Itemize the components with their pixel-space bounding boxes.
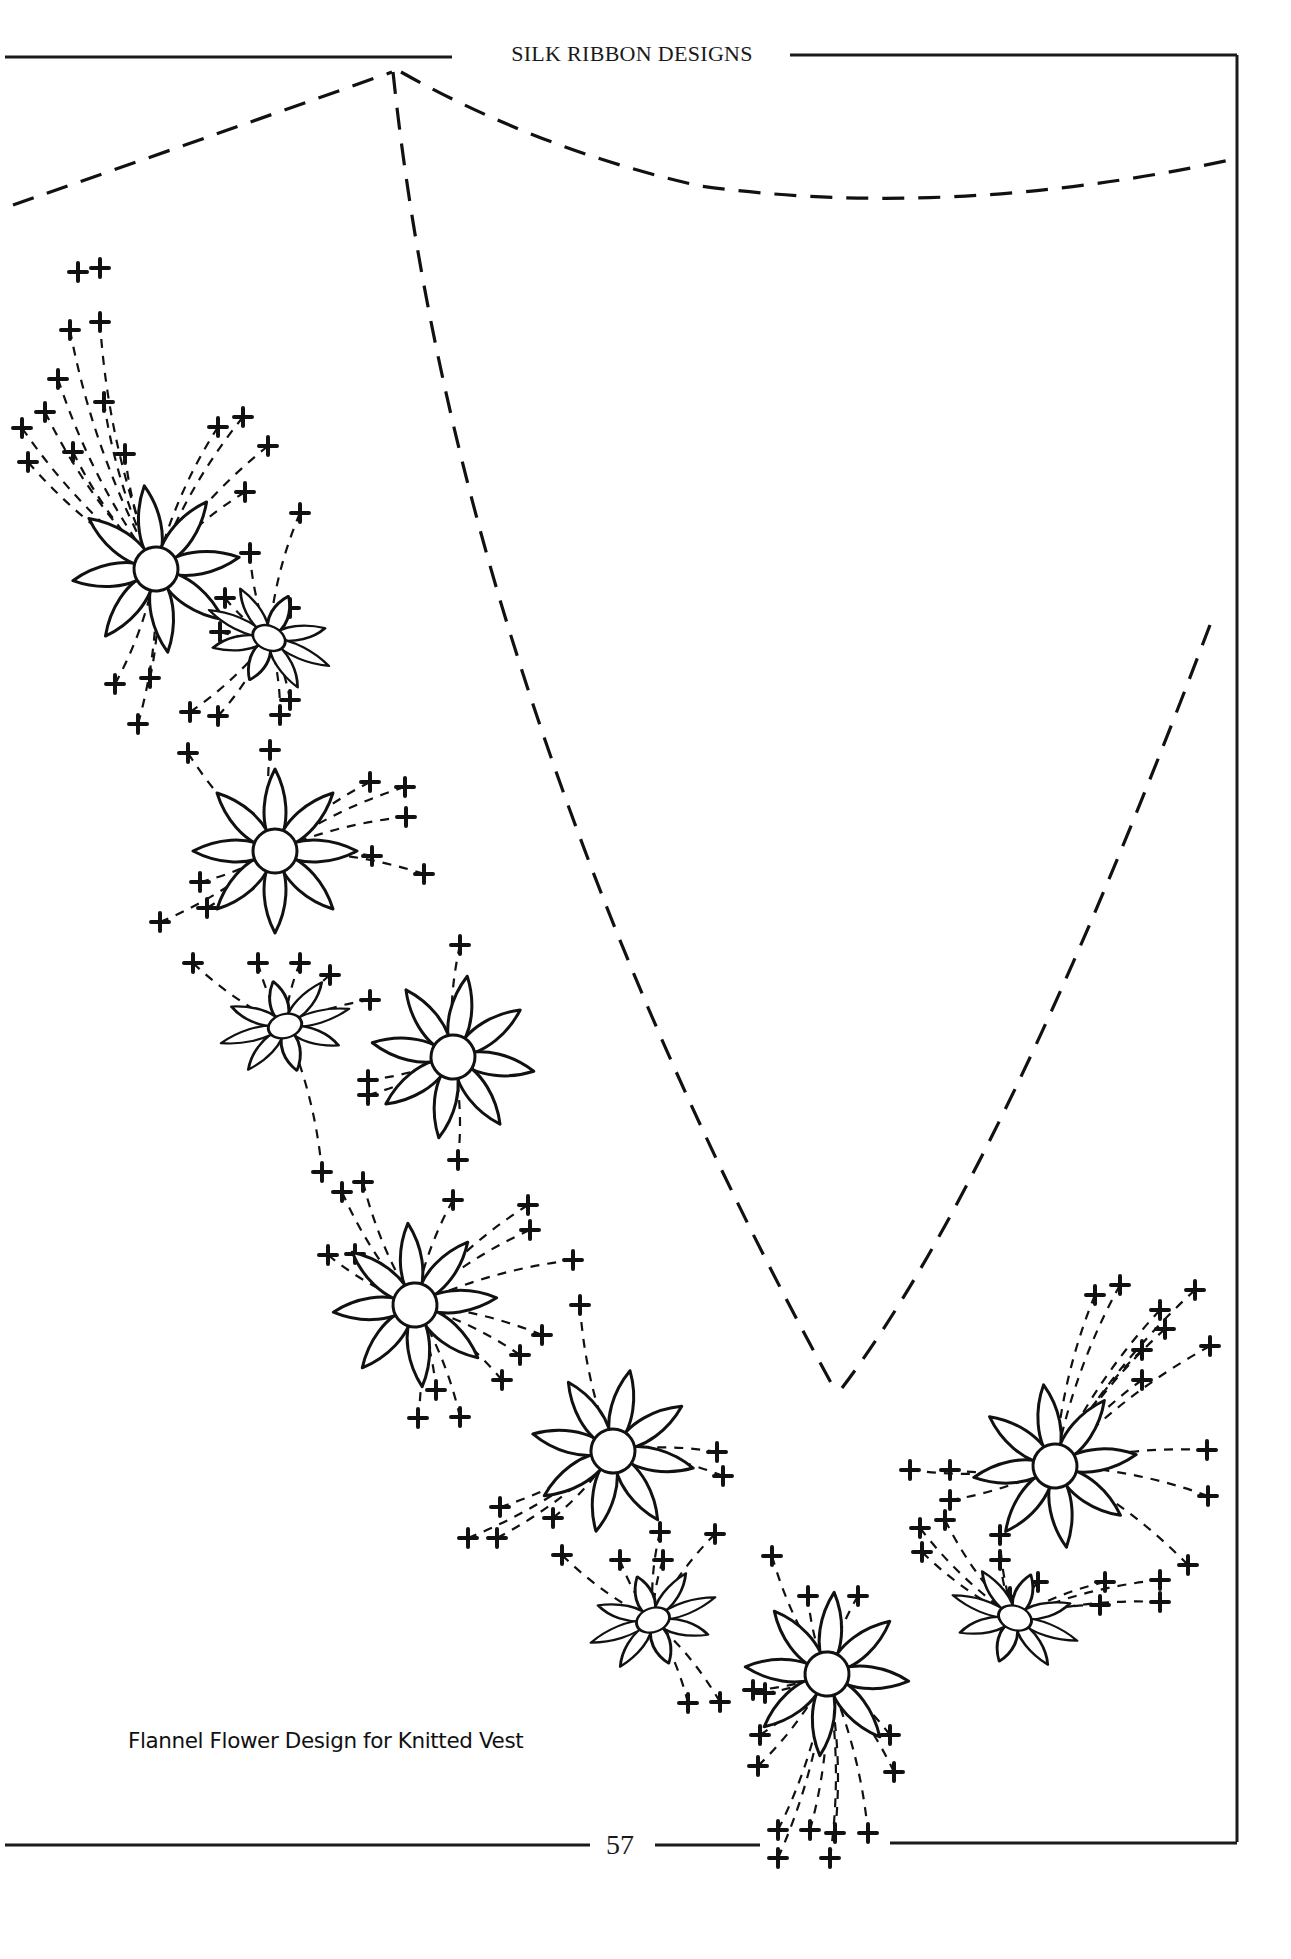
- cross-stitch-icon: [769, 1849, 787, 1867]
- cross-stitch-icon: [799, 1587, 817, 1605]
- cross-stitch-icon: [64, 443, 82, 461]
- cross-stitch-icon: [488, 1529, 506, 1547]
- flannel-flowers: [61, 474, 1147, 1763]
- cross-stitch-icon: [333, 1183, 351, 1201]
- cross-stitch-icon: [936, 1511, 954, 1529]
- cross-stitch-icon: [801, 1821, 819, 1839]
- cross-stitch-icon: [271, 706, 289, 724]
- flower-icon: [326, 1216, 504, 1394]
- flower-icon: [190, 568, 349, 708]
- cross-stitch-icon: [291, 954, 309, 972]
- cross-stitch-icon: [179, 744, 197, 762]
- cross-stitch-icon: [941, 1491, 959, 1509]
- cross-stitch-icon: [415, 865, 433, 883]
- cross-stitch-icon: [313, 1163, 331, 1181]
- cross-stitch-icon: [241, 544, 259, 562]
- cross-stitch-icon: [13, 419, 31, 437]
- cross-stitch-icon: [564, 1251, 582, 1269]
- cross-stitch-icon: [61, 321, 79, 339]
- cross-stitch-icon: [449, 1151, 467, 1169]
- page-number: 57: [600, 1829, 640, 1861]
- cross-stitch-icon: [763, 1547, 781, 1565]
- vest-outline-dashed: [13, 72, 1230, 1390]
- cross-stitch-icon: [1086, 1286, 1104, 1304]
- cross-stitch-icon: [1091, 1596, 1109, 1614]
- figure-caption: Flannel Flower Design for Knitted Vest: [128, 1728, 523, 1753]
- cross-stitch-icon: [451, 1408, 469, 1426]
- flower-icon: [937, 1552, 1093, 1684]
- pattern-illustration: [0, 0, 1291, 1959]
- cross-stitch-icon: [491, 1498, 509, 1516]
- cross-stitch-icon: [1199, 1487, 1217, 1505]
- cross-stitch-icon: [521, 1221, 539, 1239]
- cross-stitch-icon: [151, 913, 169, 931]
- cross-stitch-icon: [991, 1551, 1009, 1569]
- cross-stitch-icon: [769, 1821, 787, 1839]
- cross-stitch-icon: [69, 263, 87, 281]
- cross-stitch-icon: [849, 1587, 867, 1605]
- cross-stitch-icon: [519, 1196, 537, 1214]
- cross-stitch-icon: [859, 1824, 877, 1842]
- cross-stitch-icon: [129, 715, 147, 733]
- cross-stitch-icon: [941, 1461, 959, 1479]
- cross-stitch-icon: [1151, 1593, 1169, 1611]
- cross-stitch-icon: [361, 991, 379, 1009]
- cross-stitch-icon: [359, 1086, 377, 1104]
- cross-stitch-icon: [881, 1726, 899, 1744]
- cross-stitch-icon: [651, 1523, 669, 1541]
- cross-stitch-icon: [679, 1694, 697, 1712]
- cross-stitch-icon: [751, 1726, 769, 1744]
- cross-stitch-icon: [141, 669, 159, 687]
- cross-stitch-icon: [459, 1529, 477, 1547]
- cross-stitch-icon: [261, 741, 279, 759]
- cross-stitch-icon: [209, 418, 227, 436]
- cross-stitch-icon: [1201, 1337, 1219, 1355]
- cross-stitch-icon: [198, 899, 216, 917]
- running-head: SILK RIBBON DESIGNS: [477, 41, 787, 67]
- cross-stitch-icon: [1151, 1571, 1169, 1589]
- cross-stitch-icon: [249, 954, 267, 972]
- cross-stitch-icon: [91, 259, 109, 277]
- cross-stitch-icon: [181, 703, 199, 721]
- cross-stitch-icon: [361, 773, 379, 791]
- cross-stitch-icon: [281, 691, 299, 709]
- cross-stitch-icon: [91, 313, 109, 331]
- cross-stitch-icon: [49, 370, 67, 388]
- cross-stitch-icon: [885, 1763, 903, 1781]
- cross-stitch-icon: [427, 1381, 445, 1399]
- cross-stitch-icon: [821, 1849, 839, 1867]
- cross-stitch-icon: [571, 1296, 589, 1314]
- cross-stitch-icon: [396, 778, 414, 796]
- flower-icon: [358, 962, 548, 1152]
- cross-stitch-icon: [409, 1409, 427, 1427]
- flower-icon: [209, 964, 360, 1087]
- cross-stitch-icon: [397, 808, 415, 826]
- flower-icon: [61, 474, 251, 664]
- cross-stitch-icon: [1096, 1573, 1114, 1591]
- cross-stitch-icon: [1198, 1441, 1216, 1459]
- cross-stitch-icon: [708, 1443, 726, 1461]
- cross-stitch-icon: [533, 1326, 551, 1344]
- cross-stitch-icon: [1133, 1371, 1151, 1389]
- cross-stitch-icon: [826, 1824, 844, 1842]
- cross-stitch-icon: [511, 1346, 529, 1364]
- cross-stitch-icon: [451, 936, 469, 954]
- cross-stitch-icon: [714, 1467, 732, 1485]
- cross-stitch-icon: [744, 1681, 762, 1699]
- book-page: SILK RIBBON DESIGNS Flannel Flower Desig…: [0, 0, 1291, 1959]
- flower-icon: [193, 769, 357, 933]
- cross-stitch-icon: [1111, 1276, 1129, 1294]
- cross-stitch-icon: [756, 1684, 774, 1702]
- flower-icon: [962, 1373, 1147, 1558]
- cross-stitch-icon: [444, 1191, 462, 1209]
- cross-stitch-icon: [191, 873, 209, 891]
- cross-stitch-icon: [901, 1461, 919, 1479]
- cross-stitch-icon: [291, 504, 309, 522]
- cross-stitch-icon: [36, 403, 54, 421]
- cross-stitch-icon: [354, 1173, 372, 1191]
- cross-stitch-icon: [236, 483, 254, 501]
- cross-stitch-icon: [711, 1693, 729, 1711]
- cross-stitch-icon: [363, 847, 381, 865]
- page-frame: [5, 55, 1237, 1845]
- cross-stitch-icon: [611, 1551, 629, 1569]
